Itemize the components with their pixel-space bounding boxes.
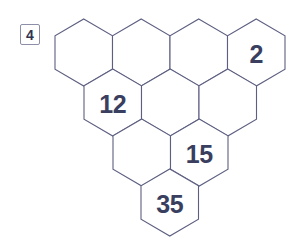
hex-value-r2c1: 12 (99, 90, 126, 118)
hex-value-r4c1: 35 (156, 190, 183, 218)
hexagon-grid: 2121535 (0, 0, 301, 241)
hexagon-puzzle-figure: 4 2121535 (0, 0, 301, 241)
hex-value-r3c2: 15 (186, 140, 213, 168)
hex-value-r1c4: 2 (250, 40, 263, 68)
